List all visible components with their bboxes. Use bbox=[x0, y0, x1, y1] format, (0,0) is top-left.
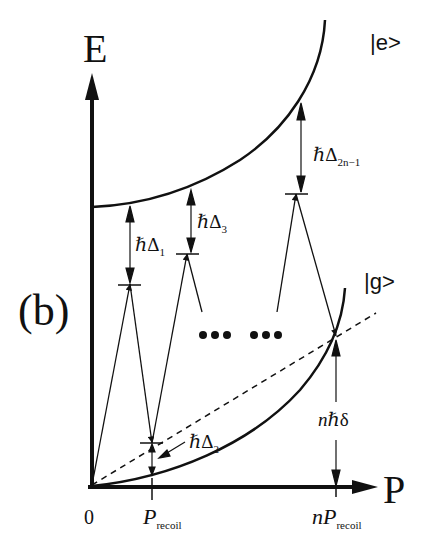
panel-label: (b) bbox=[18, 286, 69, 335]
y-axis bbox=[85, 73, 99, 487]
n-hbar-delta-label: nℏδ bbox=[318, 409, 349, 430]
excited-state-curve bbox=[92, 20, 325, 207]
delta-2n-1-arrow bbox=[297, 103, 305, 192]
x-axis-arrow-icon bbox=[352, 480, 378, 494]
y-axis-arrow-icon bbox=[85, 73, 99, 100]
n-p-recoil-label: nPrecoil bbox=[312, 504, 362, 531]
ground-state-label: |g> bbox=[364, 269, 395, 294]
energy-momentum-diagram: E P 0 (b) |e> |g> ℏΔ1 ℏΔ3 bbox=[0, 0, 437, 541]
delta-2-label: ℏΔ2 bbox=[189, 431, 219, 455]
ellipsis-dots bbox=[199, 331, 282, 339]
y-axis-label: E bbox=[83, 26, 107, 71]
delta-3-arrow bbox=[187, 190, 195, 252]
ground-state-curve bbox=[92, 288, 345, 486]
diagram-figure: E P 0 (b) |e> |g> ℏΔ1 ℏΔ3 bbox=[0, 0, 437, 541]
delta-3-label: ℏΔ3 bbox=[197, 211, 227, 235]
x-axis-label: P bbox=[383, 467, 405, 512]
delta-1-arrow bbox=[126, 206, 134, 283]
origin-label: 0 bbox=[84, 506, 94, 528]
delta-1-label: ℏΔ1 bbox=[135, 234, 165, 258]
p-recoil-label: Precoil bbox=[142, 504, 182, 531]
transition-arrows bbox=[92, 194, 336, 485]
excited-state-label: |e> bbox=[370, 30, 401, 55]
delta-2n-1-label: ℏΔ2n−1 bbox=[313, 144, 360, 168]
